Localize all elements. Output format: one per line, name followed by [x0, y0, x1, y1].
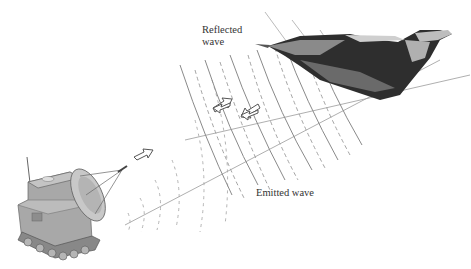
jet-aircraft-icon — [255, 30, 452, 100]
emitted-arrow-icon — [134, 149, 153, 160]
reflected-wave-label-line1: Reflected — [202, 24, 242, 36]
reflected-wave-label: Reflected wave — [202, 24, 242, 48]
radar-vehicle-icon — [18, 157, 127, 260]
beam-axis — [125, 60, 470, 225]
reflected-wave-label-line2: wave — [202, 36, 242, 48]
emitted-wave-label: Emitted wave — [256, 187, 314, 199]
